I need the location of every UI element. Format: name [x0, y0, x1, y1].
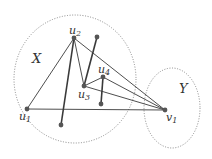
- vertex-u1-label: u1: [19, 110, 31, 124]
- edges: [27, 37, 165, 125]
- vertex-u3-label: u3: [78, 88, 90, 102]
- edge-a-u3: [84, 37, 97, 86]
- edge-u4-v1: [103, 77, 165, 110]
- set-X-label: X: [31, 51, 42, 66]
- edge-u3-v1: [84, 86, 165, 110]
- set-Y-label: Y: [179, 81, 189, 96]
- edge-u1-v1: [27, 109, 165, 110]
- vertex-c: [99, 102, 104, 107]
- vertex-a: [95, 35, 100, 40]
- edge-u4-c: [101, 77, 103, 104]
- edge-u2-b: [61, 38, 74, 125]
- set-Y-ellipse: [144, 68, 200, 148]
- diagram-canvas: XYu1u2u3u4v1: [0, 0, 212, 159]
- edge-u1-u2: [27, 38, 74, 109]
- vertex-v1-label: v1: [166, 111, 177, 125]
- vertex-u2-label: u2: [69, 24, 81, 38]
- vertex-b: [59, 123, 64, 128]
- set-ellipses: [14, 15, 200, 148]
